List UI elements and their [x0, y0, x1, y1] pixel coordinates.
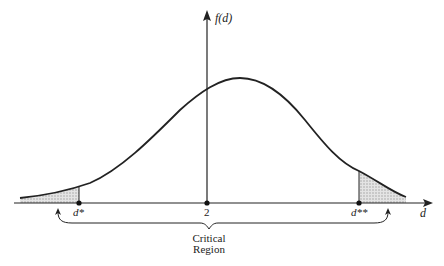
distribution-diagram: f(d) d d* 2 d** Critical Region: [0, 0, 444, 266]
lower-critical-point: [76, 200, 81, 205]
y-axis-label: f(d): [215, 11, 232, 25]
tick-label-lower-critical: d*: [73, 206, 85, 218]
density-curve: [20, 78, 406, 198]
upper-critical-point: [356, 200, 361, 205]
tick-label-center: 2: [204, 206, 210, 218]
x-axis-label: d: [420, 206, 427, 220]
center-point: [204, 200, 209, 205]
critical-region-brace: [58, 212, 388, 229]
critical-region-label-line2: Region: [193, 243, 225, 255]
tick-label-upper-critical: d**: [351, 206, 368, 218]
